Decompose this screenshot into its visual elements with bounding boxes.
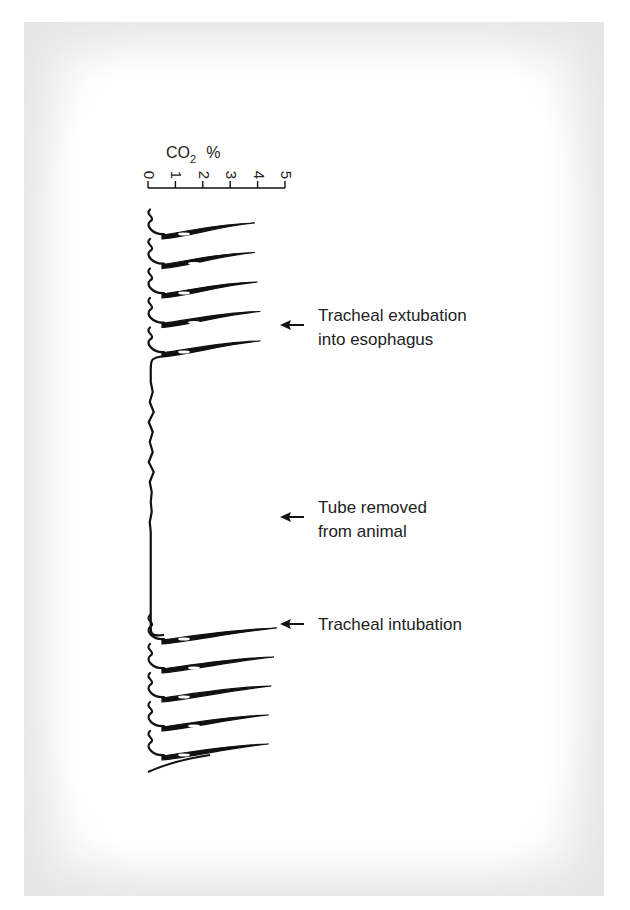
annotations: Tracheal extubationinto esophagusTube re… — [280, 306, 467, 634]
axis-tick-label: 5 — [278, 171, 295, 179]
annotation-intubation: Tracheal intubation — [280, 615, 462, 634]
breath-highlight — [188, 321, 200, 324]
annotation-text: Tracheal intubation — [318, 615, 462, 634]
breath-highlight — [188, 666, 200, 669]
annotation-text: from animal — [318, 522, 407, 541]
breath-highlight — [178, 637, 190, 640]
breath-peak — [162, 744, 269, 760]
capnogram-chart: CO2% 012345 Tracheal extubationinto esop… — [0, 0, 630, 910]
axis-tick-label: 0 — [141, 171, 158, 179]
breath-baseline — [148, 210, 164, 235]
breath-baseline — [148, 239, 164, 264]
co2-axis: 012345 — [141, 171, 295, 188]
breath-highlight — [178, 350, 190, 353]
annotation-text: Tracheal extubation — [318, 306, 467, 325]
axis-tick-label: 4 — [251, 171, 268, 179]
breath-baseline — [148, 673, 164, 697]
axis-title-unit: % — [206, 144, 220, 161]
breath-peak — [162, 715, 269, 731]
breath-peak — [162, 341, 260, 357]
annotation-text: Tube removed — [318, 498, 427, 517]
breath-peak — [162, 657, 274, 673]
axis-title: CO2% — [166, 144, 220, 165]
breath-baseline — [148, 644, 164, 668]
breath-peak — [162, 628, 277, 644]
breath-baseline — [148, 269, 164, 294]
breath-highlight — [178, 291, 190, 294]
axis-title-subscript: 2 — [190, 153, 196, 165]
breath-baseline — [148, 298, 164, 323]
breath-peak — [162, 282, 258, 298]
breath-highlight — [188, 262, 200, 265]
breath-peak — [162, 686, 271, 702]
breath-highlight — [178, 753, 190, 756]
breath-baseline — [148, 702, 164, 726]
annotation-tube-removed: Tube removedfrom animal — [280, 498, 427, 541]
breath-highlight — [178, 232, 190, 235]
series-flat-esophageal — [149, 356, 164, 635]
breath-peak — [162, 223, 255, 239]
axis-tick-label: 2 — [196, 171, 213, 179]
breath-highlight — [178, 695, 190, 698]
axis-tick-label: 3 — [223, 171, 240, 179]
series-after-intubation — [148, 615, 276, 760]
annotation-text: into esophagus — [318, 330, 433, 349]
annotation-extubation: Tracheal extubationinto esophagus — [280, 306, 467, 349]
axis-tick-label: 1 — [168, 171, 185, 179]
co2-trace — [148, 210, 277, 773]
breath-highlight — [188, 724, 200, 727]
axis-title-main: CO — [166, 144, 190, 161]
breath-peak — [162, 253, 255, 269]
breath-baseline — [148, 328, 164, 353]
series-before-extubation — [148, 210, 260, 358]
breath-peak — [162, 312, 260, 328]
breath-baseline — [148, 731, 164, 755]
